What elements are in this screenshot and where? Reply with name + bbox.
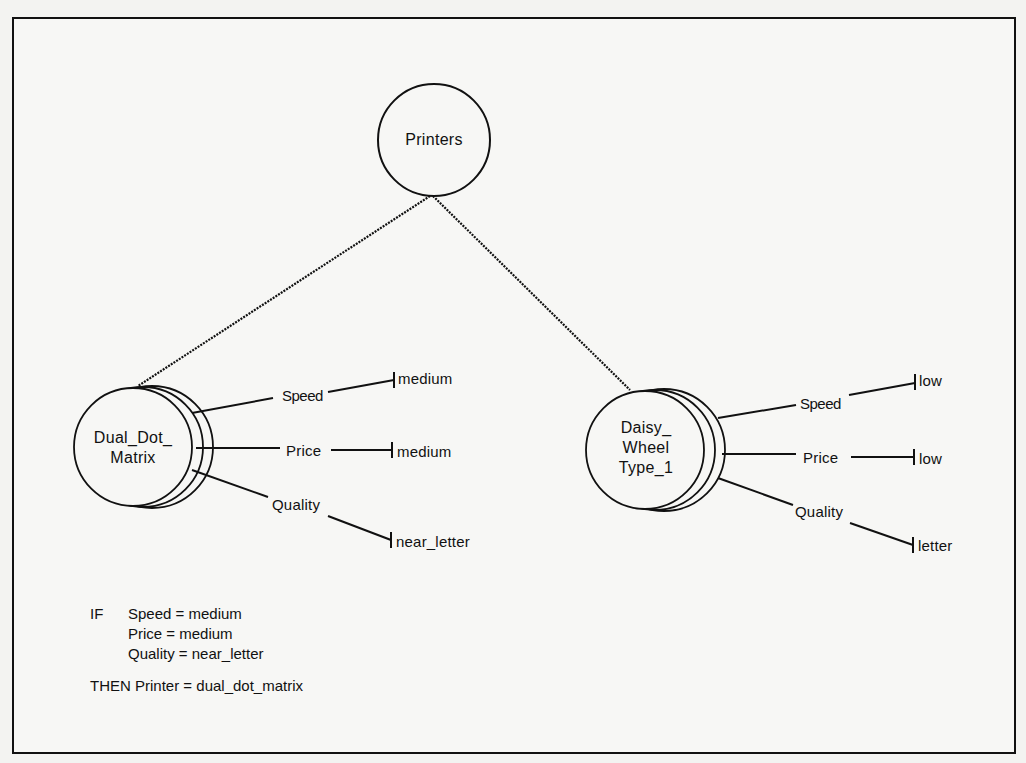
rule-condition: Price = medium bbox=[128, 624, 233, 644]
rule-condition-row: Price = medium bbox=[90, 624, 303, 644]
rule-condition: Speed = medium bbox=[128, 604, 242, 624]
rule-conclusion-row: THEN Printer = dual_dot_matrix bbox=[90, 676, 303, 696]
node-label-daisy-wheel: Daisy_ Wheel Type_1 bbox=[591, 418, 701, 478]
attr-value-speed: low bbox=[919, 372, 942, 389]
attr-name-price: Price bbox=[286, 442, 321, 459]
edge-printers-dual-dot-matrix bbox=[138, 196, 430, 386]
node-label-dual-dot-matrix: Dual_Dot_ Matrix bbox=[78, 428, 188, 468]
rule-condition-row: Quality = near_letter bbox=[90, 644, 303, 664]
edge-printers-daisy-wheel bbox=[433, 196, 630, 390]
attr-name-price: Price bbox=[803, 449, 838, 466]
root-node-label: Printers bbox=[378, 130, 490, 150]
rule-condition-row: IF Speed = medium bbox=[90, 604, 303, 624]
production-rule: IF Speed = medium Price = medium Quality… bbox=[90, 604, 303, 696]
attr-value-price: medium bbox=[397, 443, 452, 460]
attr-value-price: low bbox=[919, 450, 942, 467]
rule-condition: Quality = near_letter bbox=[128, 644, 264, 664]
attr-value-quality: near_letter bbox=[396, 533, 470, 550]
attr-name-quality: Quality bbox=[272, 496, 320, 513]
rule-conclusion: Printer = dual_dot_matrix bbox=[135, 676, 303, 696]
tree-edges bbox=[138, 196, 630, 390]
attr-name-speed: Speed bbox=[282, 387, 323, 404]
node-label-line: Matrix bbox=[78, 448, 188, 468]
then-keyword: THEN bbox=[90, 676, 131, 696]
attr-value-speed: medium bbox=[398, 370, 453, 387]
attr-name-speed: Speed bbox=[800, 395, 841, 412]
attr-value-quality: letter bbox=[918, 537, 953, 554]
node-label-line: Type_1 bbox=[591, 458, 701, 478]
attr-name-quality: Quality bbox=[795, 503, 843, 520]
node-label-line: Dual_Dot_ bbox=[78, 428, 188, 448]
if-keyword: IF bbox=[90, 604, 128, 624]
node-label-line: Wheel bbox=[591, 438, 701, 458]
node-label-line: Daisy_ bbox=[591, 418, 701, 438]
